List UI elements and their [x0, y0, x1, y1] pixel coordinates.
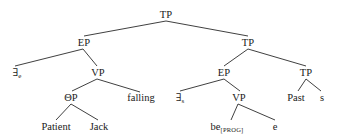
tree-edge-vp_left-theta_p [72, 79, 97, 91]
tree-edge-tp_lower-s [306, 79, 321, 91]
tree-edge-ep_right-vp_right [224, 79, 240, 91]
node-tp-root: TP [160, 10, 172, 21]
tree-edge-tp_root-tp_right [166, 21, 248, 36]
node-falling: falling [127, 93, 154, 104]
node-exists-s: ∃s [176, 93, 184, 104]
tree-edge-theta_p-jack [71, 104, 98, 120]
node-tp-lower: TP [300, 68, 312, 79]
node-ep-left: EP [78, 38, 90, 49]
tree-edges [0, 0, 337, 139]
tree-edge-ep_left-vp_left [83, 49, 97, 66]
tree-edge-vp_left-falling [97, 79, 140, 92]
node-vp-right: VP [232, 93, 245, 104]
node-jack: Jack [90, 122, 109, 133]
tree-edge-ep_right-exists_s [180, 79, 224, 91]
tree-edge-vp_right-e [238, 104, 275, 120]
node-vp-left: VP [91, 68, 104, 79]
node-e: e [273, 122, 278, 133]
node-tp-right: TP [242, 38, 254, 49]
node-patient: Patient [41, 122, 70, 133]
tree-edge-tp_root-ep_left [84, 21, 166, 36]
tree-edge-tp_right-tp_lower [248, 49, 306, 66]
tree-edge-tp_right-ep_right [224, 49, 248, 66]
syntax-tree: TP EP TP ∃e VP ΘP falling Patient Jack E… [0, 0, 337, 139]
tree-edge-ep_left-exists_e [15, 49, 83, 66]
node-theta-p: ΘP [64, 93, 77, 104]
tree-edge-theta_p-patient [56, 104, 71, 120]
node-be-prog: be[PROG] [211, 122, 244, 133]
node-exists-e: ∃e [13, 68, 22, 79]
node-past: Past [287, 93, 305, 104]
tree-edge-tp_lower-past [298, 79, 306, 91]
node-s: s [320, 93, 324, 104]
node-ep-right: EP [218, 68, 230, 79]
tree-edge-vp_right-be_prog [231, 104, 238, 120]
